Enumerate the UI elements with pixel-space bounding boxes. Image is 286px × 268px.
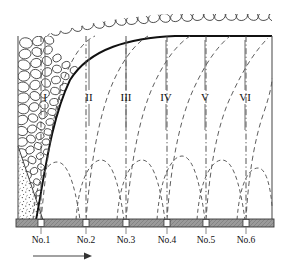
station-label-2: No.2 <box>77 235 96 245</box>
seam-base-bar <box>16 219 274 227</box>
zone-label-3: III <box>121 91 132 103</box>
zone-label-1: I <box>43 91 47 103</box>
station-label-5: No.5 <box>197 235 216 245</box>
station-label-3: No.3 <box>117 235 136 245</box>
figure-container: I II III IV V VI No.1 No.2 No.3 No.4 No.… <box>0 0 286 268</box>
station-label-6: No.6 <box>237 235 256 245</box>
zone-label-2: II <box>85 91 93 103</box>
zone-label-4: IV <box>160 91 172 103</box>
station-label-4: No.4 <box>158 235 177 245</box>
zone-label-6: VI <box>239 91 251 103</box>
zone-label-5: V <box>201 91 209 103</box>
cross-section-svg: I II III IV V VI No.1 No.2 No.3 No.4 No.… <box>0 0 286 268</box>
station-label-1: No.1 <box>32 235 51 245</box>
